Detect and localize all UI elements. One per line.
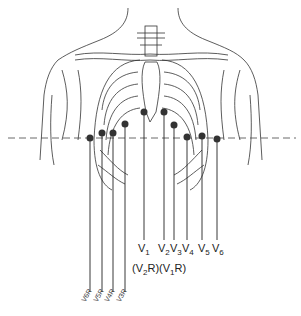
electrode-v5 [199,133,206,140]
left-body-outline [40,8,128,160]
electrode-v1 [141,109,148,116]
label-v5: V5 [198,242,210,257]
electrode-v4r [110,130,117,137]
electrode-v6r [87,135,94,142]
label-v6: V6 [212,242,224,257]
electrode-v2 [161,109,168,116]
label-v1: V1 [138,242,150,257]
electrode-v4 [184,134,191,141]
label-v2: V2 [158,242,170,257]
label-v2r-v1r: (V2R)(V1R) [132,262,186,277]
label-v3: V3 [170,242,182,257]
electrode-v6 [214,136,221,143]
electrode-v3r [122,121,129,128]
label-v4: V4 [182,242,194,257]
electrode-v5r [99,130,106,137]
electrode-v3 [171,122,178,129]
